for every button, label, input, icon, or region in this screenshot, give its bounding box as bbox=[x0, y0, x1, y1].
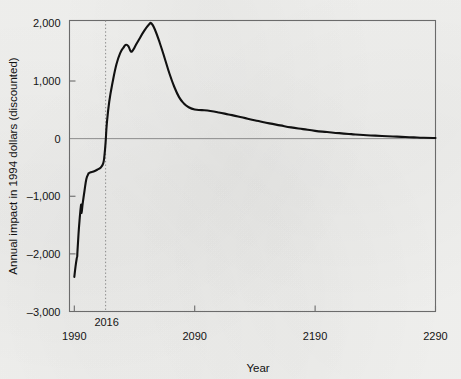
year-2016-annotation-label: 2016 bbox=[94, 316, 118, 328]
y-tick-label: –1,000 bbox=[27, 190, 61, 202]
x-tick-label: 1990 bbox=[62, 330, 86, 342]
x-axis-title: Year bbox=[246, 362, 269, 374]
x-tick-label: 2090 bbox=[182, 330, 206, 342]
y-axis-title: Annual impact in 1994 dollars (discounte… bbox=[7, 57, 19, 275]
chart-figure: 1990209021902290 2,0001,0000–1,000–2,000… bbox=[0, 0, 461, 379]
y-tick-label: 0 bbox=[54, 133, 60, 145]
y-axis-ticks: 2,0001,0000–1,000–2,000–3,000 bbox=[27, 17, 76, 317]
line-chart: 1990209021902290 2,0001,0000–1,000–2,000… bbox=[0, 0, 461, 379]
x-tick-label: 2190 bbox=[303, 330, 327, 342]
y-tick-label: –3,000 bbox=[27, 306, 61, 318]
x-axis-ticks: 1990209021902290 bbox=[62, 306, 448, 342]
y-tick-label: 1,000 bbox=[33, 75, 61, 87]
plot-frame bbox=[70, 21, 436, 312]
x-tick-label: 2290 bbox=[423, 330, 447, 342]
impact-series-line bbox=[74, 23, 435, 277]
y-tick-label: –2,000 bbox=[27, 248, 61, 260]
y-tick-label: 2,000 bbox=[33, 17, 61, 29]
